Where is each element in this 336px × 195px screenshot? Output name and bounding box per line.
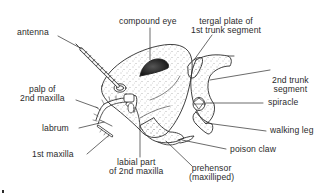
label-prehensor: prehensor (maxilliped) [189, 164, 234, 183]
label-compound-eye: compound eye [119, 17, 177, 26]
label-second-trunk-segment: 2nd trunk segment [272, 76, 309, 95]
label-spiracle: spiracle [268, 98, 298, 107]
label-palp-second-maxilla: palp of 2nd maxilla [20, 85, 65, 104]
corner-mark [2, 190, 4, 193]
label-first-maxilla: 1st maxilla [32, 150, 74, 159]
centipede-head-diagram: antenna compound eye tergal plate of 1st… [0, 0, 336, 195]
label-walking-leg: walking leg [270, 126, 314, 135]
label-antenna: antenna [17, 28, 49, 37]
label-poison-claw: poison claw [230, 145, 276, 154]
label-tergal-plate: tergal plate of 1st trunk segment [191, 17, 261, 36]
antenna-shape [76, 44, 118, 86]
label-labrum: labrum [42, 124, 69, 133]
label-labial-part: labial part of 2nd maxilla [109, 158, 163, 177]
